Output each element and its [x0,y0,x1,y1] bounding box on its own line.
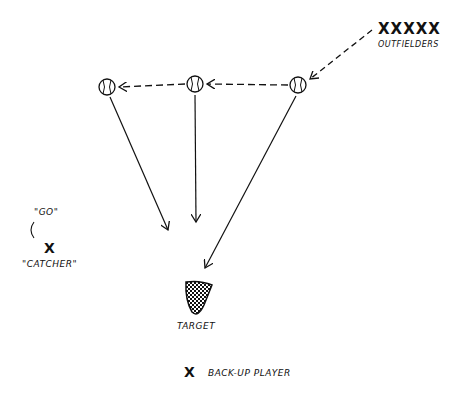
throw-path-outfielders-to-right [310,30,372,79]
outfielders-label: OUTFIELDERS [378,40,439,49]
baseball-icon [187,76,203,92]
catcher-mark: X [44,240,55,256]
baseball-icon [290,77,306,93]
go-call-mark [31,222,34,238]
diagram-lines [0,0,463,396]
baseball-icon [99,79,115,95]
catcher-label: "CATCHER" [22,259,77,269]
throw-path-right-to-middle [207,84,288,85]
backup-player-mark: X [184,364,195,380]
target-net-icon [186,281,212,313]
backup-player-label: BACK-UP PLAYER [208,368,291,378]
throw-middle-ball [195,95,196,222]
outfielders-marks: XXXXX [378,20,441,38]
go-label: "GO" [34,207,58,217]
target-label: TARGET [177,321,215,331]
throw-left-ball [110,97,168,230]
diagram-canvas: XXXXX OUTFIELDERS "GO" X "CATCHER" TARGE… [0,0,463,396]
throw-right-ball [205,96,296,268]
throw-path-middle-to-left [119,84,185,87]
